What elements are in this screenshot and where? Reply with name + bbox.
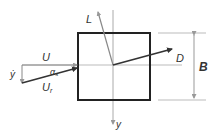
diagram-canvas: L D U Ur ẏ αs y B: [0, 0, 220, 135]
drag-label: D: [176, 52, 184, 64]
y-axis-label: y: [115, 119, 122, 130]
relative-wind-label-sub: r: [50, 87, 53, 94]
angle-label-sub: s: [55, 71, 58, 77]
vertical-velocity-label: ẏ: [9, 69, 16, 80]
square-section: [78, 33, 150, 100]
lift-arrow: [98, 12, 113, 65]
lift-label: L: [86, 13, 92, 25]
relative-wind-label: Ur: [42, 81, 53, 94]
width-label: B: [199, 60, 208, 74]
drag-arrow: [113, 49, 172, 65]
relative-wind-label-main: U: [42, 81, 50, 93]
wind-speed-label: U: [42, 51, 50, 63]
angle-label: αs: [50, 67, 58, 77]
